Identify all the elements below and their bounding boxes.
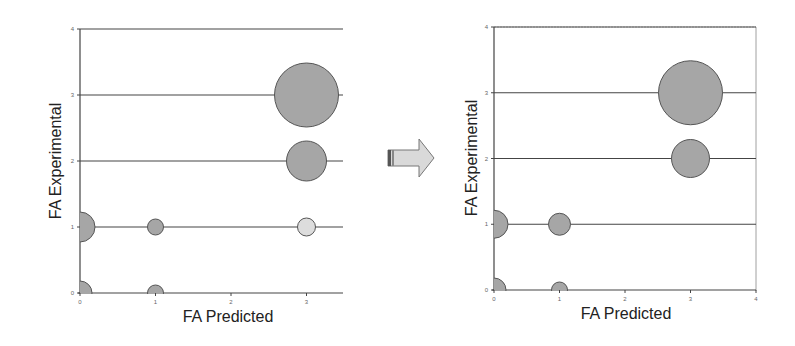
bubble: [275, 63, 339, 127]
left-y-ticks: 01234: [71, 26, 80, 296]
x-tick-label: 2: [229, 299, 233, 305]
x-tick-label: 0: [78, 299, 82, 305]
left-x-ticks: 0123: [78, 293, 309, 305]
x-tick-label: 1: [558, 296, 562, 302]
left-y-axis-title: FA Experimental: [47, 103, 64, 220]
bubble: [298, 218, 316, 236]
x-tick-label: 2: [623, 296, 627, 302]
x-tick-label: 1: [154, 299, 158, 305]
bubble: [659, 61, 723, 125]
x-tick-label: 3: [689, 296, 693, 302]
left-x-axis-title: FA Predicted: [183, 308, 274, 325]
x-tick-label: 0: [492, 296, 496, 302]
bubble: [287, 141, 327, 181]
bubble: [549, 213, 571, 235]
x-tick-label: 4: [754, 296, 758, 302]
left-chart: 01234 0123 FA Predicted FA Experimental: [47, 26, 343, 325]
right-y-axis-title: FA Experimental: [463, 100, 480, 217]
y-tick-label: 4: [71, 26, 75, 32]
y-tick-label: 0: [485, 287, 489, 293]
left-gridlines: [80, 29, 343, 227]
y-tick-label: 3: [71, 92, 75, 98]
bubble: [672, 140, 710, 178]
y-tick-label: 2: [71, 158, 75, 164]
right-arrow-icon: [388, 139, 434, 177]
y-tick-label: 3: [485, 90, 489, 96]
right-x-ticks: 01234: [492, 290, 758, 302]
right-bubbles: [480, 61, 723, 302]
y-tick-label: 1: [71, 224, 75, 230]
bubble-chart-figure: 01234 0123 FA Predicted FA Experimental …: [0, 0, 795, 346]
right-gridlines: [494, 27, 756, 224]
bubble: [148, 219, 164, 235]
left-bubbles: [65, 63, 339, 305]
right-x-axis-title: FA Predicted: [581, 305, 672, 322]
y-tick-label: 1: [485, 221, 489, 227]
y-tick-label: 0: [71, 290, 75, 296]
right-chart: 01234 01234 FA Predicted FA Experimental: [463, 24, 758, 322]
y-tick-label: 4: [485, 24, 489, 30]
y-tick-label: 2: [485, 156, 489, 162]
x-tick-label: 3: [305, 299, 309, 305]
right-y-ticks: 01234: [485, 24, 494, 293]
